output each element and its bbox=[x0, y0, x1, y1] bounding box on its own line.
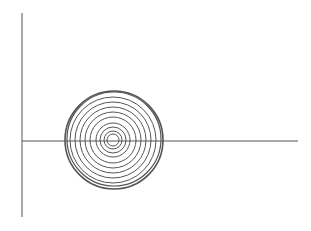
ring-10 bbox=[107, 134, 119, 146]
concentric-circles-figure bbox=[0, 0, 311, 231]
ring-1 bbox=[67, 92, 161, 186]
ring-group bbox=[65, 91, 163, 189]
ring-3 bbox=[75, 102, 151, 178]
ring-5 bbox=[85, 112, 141, 168]
ring-6 bbox=[90, 117, 136, 163]
ring-2 bbox=[70, 97, 156, 183]
ring-7 bbox=[96, 123, 130, 157]
